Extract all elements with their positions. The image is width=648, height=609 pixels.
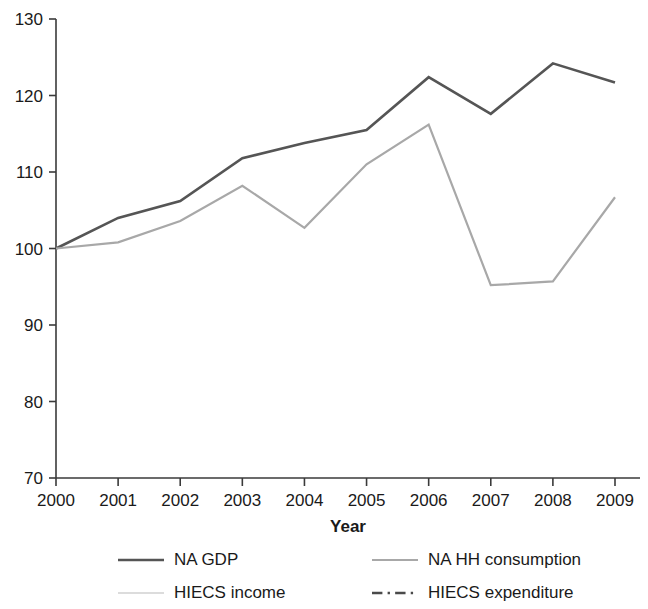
x-tick-label: 2009	[596, 491, 634, 510]
legend-item-na-hh-consumption: NA HH consumption	[300, 550, 648, 570]
x-tick-label: 2002	[161, 491, 199, 510]
x-tick-label: 2005	[348, 491, 386, 510]
legend-swatch-na-hh-consumption	[372, 553, 418, 567]
y-tick-label: 110	[16, 163, 43, 182]
chart-legend: NA GDP NA HH consumption HIECS income HI…	[0, 543, 648, 609]
x-tick-label: 2001	[99, 491, 137, 510]
x-tick-labels: 2000200120022003200420052006200720082009	[37, 491, 634, 510]
legend-label-na-gdp: NA GDP	[174, 550, 238, 570]
legend-swatch-hiecs-expenditure	[372, 586, 418, 600]
x-tick-label: 2008	[534, 491, 572, 510]
data-series-group	[56, 63, 615, 285]
y-axis: 708090100110120130	[15, 10, 56, 488]
x-tick-label: 2006	[410, 491, 448, 510]
legend-swatch-na-gdp	[118, 553, 164, 567]
legend-label-hiecs-expenditure: HIECS expenditure	[428, 583, 574, 603]
legend-label-na-hh-consumption: NA HH consumption	[428, 550, 581, 570]
legend-item-hiecs-expenditure: HIECS expenditure	[300, 583, 648, 603]
y-tick-label: 90	[24, 316, 43, 335]
legend-swatch-hiecs-income	[118, 586, 164, 600]
y-tick-labels: 708090100110120130	[15, 10, 43, 488]
line-chart-figure: 708090100110120130 200020012002200320042…	[0, 0, 648, 609]
x-tick-label: 2004	[286, 491, 324, 510]
y-tick-label: 80	[24, 393, 43, 412]
x-tick-label: 2003	[223, 491, 261, 510]
x-axis: 2000200120022003200420052006200720082009	[37, 478, 640, 510]
y-tick-label: 70	[24, 469, 43, 488]
legend-label-hiecs-income: HIECS income	[174, 583, 285, 603]
series-line-na-hh-consumption	[56, 125, 615, 286]
y-tick-label: 100	[15, 240, 43, 259]
y-tick-label: 130	[15, 10, 43, 29]
legend-item-hiecs-income: HIECS income	[0, 583, 300, 603]
x-tick-marks	[56, 478, 615, 486]
x-tick-label: 2007	[472, 491, 510, 510]
x-tick-label: 2000	[37, 491, 75, 510]
plot-area: 708090100110120130 200020012002200320042…	[0, 0, 648, 543]
series-line-na-gdp	[56, 63, 615, 248]
legend-item-na-gdp: NA GDP	[0, 550, 300, 570]
y-tick-label: 120	[15, 87, 43, 106]
y-tick-marks	[49, 19, 56, 478]
x-axis-title: Year	[330, 517, 366, 536]
